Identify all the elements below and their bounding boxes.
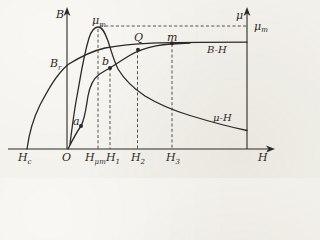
bh-curve-from-hc [27,42,247,149]
origin-label: O [62,151,71,164]
bh-curve-label: B-H [206,44,227,55]
labels: B μ μm μm Br a b Q m B-H μ-H Hc O Hμm H1… [17,8,268,166]
mu-m-peak-label: μm [92,14,106,29]
point-q-dot [136,48,140,52]
b-r-label: Br [49,57,62,72]
point-a-dot [79,124,83,128]
mu-axis-label: μ [236,9,243,22]
marked-points [79,41,174,128]
b-axis-label: B [55,8,64,21]
magnetization-figure: B μ μm μm Br a b Q m B-H μ-H Hc O Hμm H1… [0,0,282,178]
h-mum-tick-label: Hμm [84,151,106,166]
h-axis-label: H [257,151,268,164]
h2-tick-label: H2 [130,151,146,166]
axes [8,7,275,152]
h1-tick-label: H1 [105,151,120,166]
point-b-label: b [102,55,109,68]
point-a-label: a [73,115,80,128]
mu-h-curve-label: μ-H [213,112,232,123]
h3-tick-label: H3 [165,151,181,166]
bh-initial-magnetization-curve [68,43,190,149]
mu-m-axis-label: μm [254,20,268,35]
point-m-label: m [167,31,177,44]
h-c-tick-label: Hc [17,151,32,166]
point-q-label: Q [134,31,143,44]
